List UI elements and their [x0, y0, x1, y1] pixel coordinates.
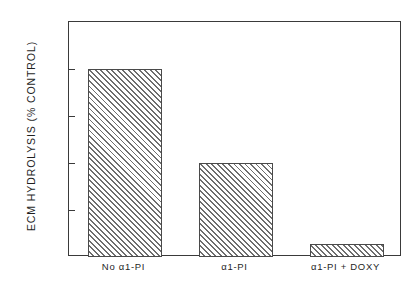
- bar-chart-figure: ECM HYDROLYSIS (% CONTROL) 0255075100125…: [0, 0, 418, 281]
- y-tick-mark: [69, 210, 75, 211]
- x-tick-label: α1-PI: [221, 261, 247, 272]
- y-axis-title: ECM HYDROLYSIS (% CONTROL): [25, 21, 37, 251]
- bar: [199, 163, 273, 257]
- bar: [310, 244, 384, 257]
- y-tick-mark: [69, 116, 75, 117]
- y-tick-mark: [69, 163, 75, 164]
- bar: [88, 69, 162, 257]
- x-tick-label: α1-PI + DOXY: [311, 261, 380, 272]
- x-tick-label: No α1-PI: [102, 261, 145, 272]
- y-tick-mark: [69, 69, 75, 70]
- plot-area: [68, 21, 401, 256]
